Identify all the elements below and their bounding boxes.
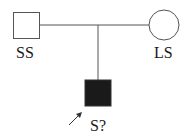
pedigree-diagram: SS LS S? (0, 0, 187, 140)
proband-arrow-icon (69, 112, 82, 125)
father-label: SS (16, 44, 34, 61)
father-square (14, 13, 40, 39)
proband-square (85, 80, 111, 106)
mother-label: LS (154, 44, 173, 61)
mother-circle (149, 10, 179, 40)
proband-label: S? (90, 117, 106, 134)
